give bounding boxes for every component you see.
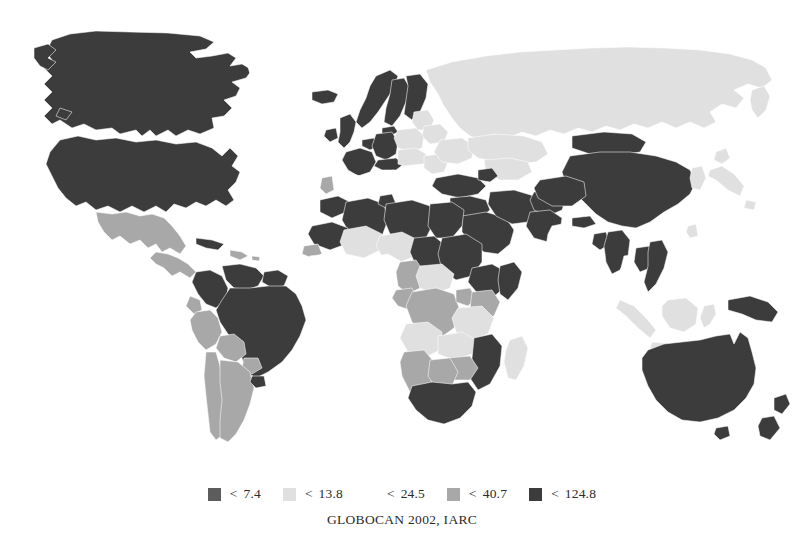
region-germany [372, 132, 398, 160]
region-mozambique [470, 334, 502, 390]
legend-swatch-4 [447, 488, 460, 501]
region-puerto-rico [252, 256, 260, 261]
region-mexico [96, 212, 186, 254]
region-south-africa [408, 382, 476, 424]
world-map-svg [0, 0, 804, 470]
legend-entry-5: < 124.8 [529, 486, 596, 502]
legend-entry-4: < 40.7 [447, 486, 507, 502]
region-guyanas [262, 270, 288, 288]
region-iceland [312, 90, 338, 104]
source-caption: GLOBOCAN 2002, IARC [0, 512, 804, 528]
region-nigeria [362, 254, 402, 286]
region-cuba [196, 238, 224, 250]
region-mali [340, 226, 382, 258]
legend-entry-3: < 24.5 [365, 486, 425, 502]
region-venezuela [222, 264, 264, 290]
legend-swatch-2 [283, 488, 296, 501]
region-tasmania [714, 426, 730, 440]
region-portugal [320, 176, 334, 194]
region-egypt [428, 202, 464, 238]
region-greenland [244, 30, 296, 92]
region-greece [418, 188, 436, 204]
region-canada [44, 31, 252, 136]
region-new-guinea [728, 296, 778, 322]
region-philippines [688, 248, 712, 292]
legend-value-5: 124.8 [565, 486, 596, 502]
legend-value-4: 40.7 [483, 486, 507, 502]
legend-operator-3: < [387, 486, 395, 502]
region-argentina [220, 360, 254, 442]
legend: < 7.4 < 13.8 < 24.5 < 40.7 [0, 470, 804, 547]
region-usa [46, 136, 240, 212]
region-india [546, 222, 594, 302]
legend-entry-2: < 13.8 [283, 486, 343, 502]
region-new-zealand [758, 394, 790, 440]
region-nepal [572, 216, 596, 228]
region-madagascar [504, 336, 528, 380]
figure-root: < 7.4 < 13.8 < 24.5 < 40.7 [0, 0, 804, 547]
region-japan [708, 148, 756, 210]
region-kamchatka [750, 86, 770, 118]
legend-value-3: 24.5 [401, 486, 425, 502]
legend-operator-2: < [305, 486, 313, 502]
world-map [0, 0, 804, 470]
region-somalia [498, 262, 522, 300]
region-uk [338, 114, 356, 148]
region-poland [394, 128, 424, 152]
legend-operator-5: < [551, 486, 559, 502]
region-hispaniola [230, 250, 248, 260]
legend-swatch-1 [208, 488, 221, 501]
legend-entry-1: < 7.4 [208, 486, 261, 502]
legend-operator-4: < [469, 486, 477, 502]
region-korea [690, 166, 706, 190]
region-ireland [324, 128, 338, 142]
legend-value-2: 13.8 [319, 486, 343, 502]
region-france [342, 148, 376, 176]
legend-operator-1: < [230, 486, 238, 502]
legend-value-1: 7.4 [243, 486, 260, 502]
legend-swatch-3 [365, 488, 378, 501]
region-sri-lanka [576, 299, 590, 312]
region-russia [426, 47, 772, 140]
region-borneo [662, 298, 698, 332]
region-central-america [150, 252, 196, 278]
region-taiwan [686, 224, 698, 238]
region-sulawesi [700, 304, 716, 328]
legend-row: < 7.4 < 13.8 < 24.5 < 40.7 [0, 470, 804, 507]
legend-swatch-5 [529, 488, 542, 501]
